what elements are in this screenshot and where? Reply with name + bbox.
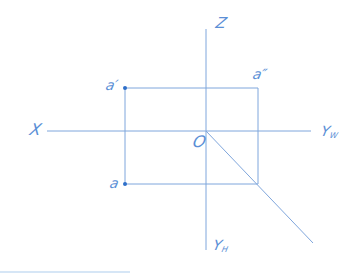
projection-diagram: Z X YW YH O a′ a″ a bbox=[0, 0, 357, 273]
point-a-top bbox=[123, 182, 127, 186]
point-a-front bbox=[123, 86, 127, 90]
yw-axis-label: YW bbox=[319, 124, 340, 140]
point-a-side-label: a″ bbox=[252, 67, 269, 81]
diagram-svg bbox=[0, 0, 357, 273]
diagonal-construction-line bbox=[206, 131, 313, 243]
